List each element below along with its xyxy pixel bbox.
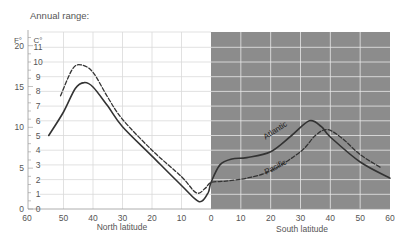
y-tick-label-f: 10	[15, 122, 25, 132]
y-tick-label-f: 5	[19, 163, 24, 173]
y-tick-label-c: 2	[36, 175, 41, 185]
y-tick-label-c: 8	[36, 86, 41, 96]
y-tick-label-f: 15	[15, 82, 25, 92]
y-tick-label-c: 9	[36, 72, 41, 82]
y-tick-label-c: 7	[36, 101, 41, 111]
x-tick-label-north: 10	[177, 213, 187, 223]
x-tick-label-north: 20	[147, 213, 157, 223]
x-tick-label-south: 10	[236, 213, 246, 223]
y-tick-label-f: 20	[15, 41, 25, 51]
x-tick-label-south: 60	[385, 213, 395, 223]
x-tick-label-south: 40	[326, 213, 336, 223]
y-tick-label-c: 5	[36, 131, 41, 141]
y-tick-label-c: 3	[36, 160, 41, 170]
y-tick-label-c: 4	[36, 145, 41, 155]
x-tick-label-north: 50	[59, 213, 69, 223]
x-tick-label-north: 0	[209, 213, 214, 223]
x-tick-label-south: 50	[355, 213, 365, 223]
x-tick-label-north: 60	[22, 213, 32, 223]
x-axis-title-north: North latitude	[97, 222, 148, 232]
y-tick-label-c: 11	[34, 42, 43, 52]
x-axis-title-south: South latitude	[276, 224, 328, 234]
chart-title: Annual range:	[30, 10, 89, 21]
y-tick-label-c: 10	[33, 57, 43, 67]
annual-range-chart: AtlanticPacific F°C°05101520012345678910…	[0, 0, 407, 247]
y-tick-label-c: 6	[36, 116, 41, 126]
x-tick-label-south: 30	[296, 213, 306, 223]
x-tick-label-south: 20	[266, 213, 276, 223]
y-tick-label-c: 1	[36, 189, 41, 199]
y-tick-label-c: 0	[36, 204, 41, 214]
